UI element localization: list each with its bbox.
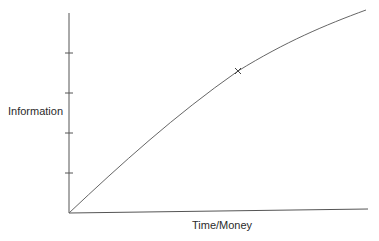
diminishing-returns-chart xyxy=(0,0,379,241)
x-axis xyxy=(69,209,368,213)
information-curve xyxy=(69,10,366,213)
x-axis-label: Time/Money xyxy=(192,219,252,231)
curve-marker-icon xyxy=(235,68,241,74)
y-axis-label: Information xyxy=(8,105,63,117)
